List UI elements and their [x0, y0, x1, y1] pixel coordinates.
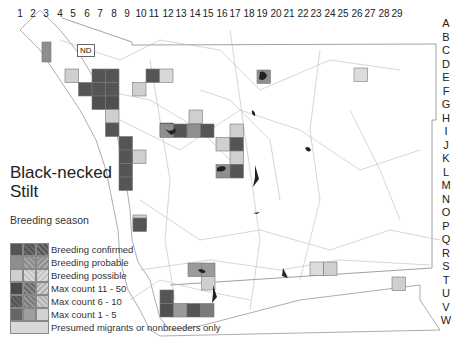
swatch-hatched: [23, 243, 36, 256]
legend-item-probable: Breeding probable: [10, 256, 129, 269]
legend-label: Max count 1 - 5: [51, 309, 116, 320]
col-label-17: 17: [228, 8, 242, 19]
col-label-22: 22: [296, 8, 310, 19]
swatch-solid: [10, 295, 23, 308]
row-label-m: M: [440, 179, 452, 192]
legend-item-possible: Breeding possible: [10, 269, 127, 282]
swatch-hatched: [23, 269, 36, 282]
legend-label: Max count 6 - 10: [51, 296, 122, 307]
row-label-u: U: [440, 287, 452, 300]
col-label-20: 20: [269, 8, 283, 19]
swatch-solid: [10, 269, 23, 282]
swatch-crosshatched: [36, 256, 49, 269]
col-label-2: 2: [26, 8, 40, 19]
legend-swatches: [10, 243, 49, 256]
row-label-n: N: [440, 193, 452, 206]
row-label-h: H: [440, 112, 452, 125]
col-label-11: 11: [147, 8, 161, 19]
swatch-crosshatched: [36, 295, 49, 308]
swatch-solid: [10, 256, 23, 269]
legend-label: Max count 11 - 50: [51, 283, 126, 294]
col-label-21: 21: [282, 8, 296, 19]
col-label-8: 8: [107, 8, 121, 19]
col-label-15: 15: [201, 8, 215, 19]
legend-label: Breeding probable: [51, 257, 129, 268]
row-label-c: C: [440, 44, 452, 57]
legend-swatches: [10, 282, 49, 295]
row-label-t: T: [440, 274, 452, 287]
legend-swatches: [10, 308, 49, 321]
col-label-10: 10: [134, 8, 148, 19]
legend-item-migrants: Presumed migrants or nonbreeders only: [10, 321, 221, 334]
swatch-solid: [10, 243, 23, 256]
swatch-crosshatched: [36, 269, 49, 282]
col-label-1: 1: [13, 8, 27, 19]
col-label-6: 6: [80, 8, 94, 19]
swatch-solid: [10, 321, 49, 334]
title-line-1: Black-necked: [10, 163, 112, 182]
swatch-solid: [10, 308, 23, 321]
row-label-p: P: [440, 220, 452, 233]
swatch-hatched: [23, 256, 36, 269]
col-label-14: 14: [188, 8, 202, 19]
col-label-4: 4: [53, 8, 67, 19]
legend-item-max-1-5: Max count 1 - 5: [10, 308, 116, 321]
row-label-v: V: [440, 301, 452, 314]
row-label-g: G: [440, 98, 452, 111]
map-subtitle: Breeding season: [10, 214, 89, 226]
row-label-j: J: [440, 139, 452, 152]
legend-label: Presumed migrants or nonbreeders only: [51, 322, 221, 333]
col-label-3: 3: [39, 8, 53, 19]
legend-item-max-11-50: Max count 11 - 50: [10, 282, 126, 295]
no-data-label: ND: [77, 44, 95, 57]
col-label-19: 19: [255, 8, 269, 19]
swatch-hatched: [23, 295, 36, 308]
col-label-13: 13: [174, 8, 188, 19]
legend-label: Breeding confirmed: [51, 244, 133, 255]
col-label-29: 29: [390, 8, 404, 19]
row-label-f: F: [440, 85, 452, 98]
row-label-l: L: [440, 166, 452, 179]
row-label-d: D: [440, 58, 452, 71]
col-label-12: 12: [161, 8, 175, 19]
row-label-k: K: [440, 152, 452, 165]
swatch-crosshatched: [36, 282, 49, 295]
row-label-i: I: [440, 125, 452, 138]
row-label-r: R: [440, 247, 452, 260]
row-label-o: O: [440, 206, 452, 219]
title-line-2: Stilt: [10, 182, 112, 201]
swatch-hatched: [23, 308, 36, 321]
legend-swatches: [10, 256, 49, 269]
row-label-b: B: [440, 31, 452, 44]
col-label-26: 26: [350, 8, 364, 19]
col-label-5: 5: [66, 8, 80, 19]
legend-item-max-6-10: Max count 6 - 10: [10, 295, 122, 308]
map-title: Black-necked Stilt: [10, 163, 112, 201]
legend-swatches: [10, 269, 49, 282]
col-label-7: 7: [93, 8, 107, 19]
swatch-crosshatched: [36, 243, 49, 256]
legend-swatches: [10, 321, 49, 334]
col-label-9: 9: [120, 8, 134, 19]
row-label-s: S: [440, 260, 452, 273]
col-label-25: 25: [336, 8, 350, 19]
col-label-27: 27: [363, 8, 377, 19]
col-label-16: 16: [215, 8, 229, 19]
legend-item-confirmed: Breeding confirmed: [10, 243, 133, 256]
row-label-w: W: [440, 314, 452, 327]
col-label-18: 18: [242, 8, 256, 19]
legend-label: Breeding possible: [51, 270, 127, 281]
col-label-23: 23: [309, 8, 323, 19]
col-label-24: 24: [323, 8, 337, 19]
row-label-e: E: [440, 71, 452, 84]
swatch-crosshatched: [36, 308, 49, 321]
col-label-28: 28: [377, 8, 391, 19]
swatch-hatched: [23, 282, 36, 295]
swatch-solid: [10, 282, 23, 295]
legend-swatches: [10, 295, 49, 308]
row-label-q: Q: [440, 233, 452, 246]
row-label-a: A: [440, 17, 452, 30]
